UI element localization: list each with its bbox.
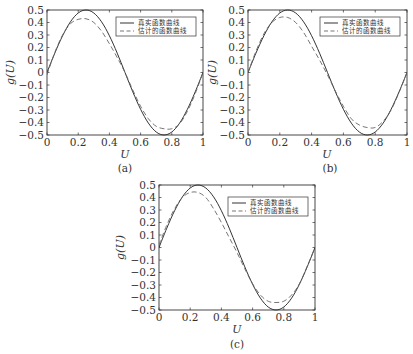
y-tick-label: 0.4 (139, 191, 156, 203)
y-tick-label: −0.1 (19, 79, 45, 91)
y-tick-label: 0.1 (228, 54, 245, 66)
chart-panel-a: 0.50.40.30.20.10−0.1−0.2−0.3−0.4−0.500.2… (4, 4, 206, 175)
legend: 真实函数曲线估计的函数曲线 (228, 197, 308, 216)
legend: 真实函数曲线估计的函数曲线 (116, 17, 196, 36)
y-tick-label: −0.3 (19, 104, 45, 116)
y-axis-label: g(U) (4, 60, 17, 85)
y-tick-label: −0.2 (131, 266, 157, 278)
legend-label-estimate: 估计的函数曲线 (138, 26, 187, 35)
y-tick-label: −0.5 (131, 304, 157, 316)
panel-caption: (b) (323, 162, 338, 174)
x-tick-label: 0.2 (182, 311, 199, 323)
chart-panel-b: 0.50.40.30.20.10−0.1−0.2−0.3−0.4−0.500.2… (206, 4, 410, 175)
y-tick-label: 0.5 (228, 4, 245, 16)
x-tick-label: 1 (312, 311, 319, 323)
y-tick-label: 0.3 (139, 204, 156, 216)
y-tick-label: −0.1 (131, 254, 157, 266)
y-tick-label: 0.4 (27, 16, 44, 28)
y-tick-label: −0.5 (220, 129, 246, 141)
x-axis-label: U (232, 323, 242, 336)
x-tick-label: 1 (404, 136, 411, 148)
legend-label-true: 真实函数曲线 (250, 198, 292, 207)
y-tick-label: −0.2 (220, 91, 246, 103)
y-tick-label: 0.4 (228, 16, 245, 28)
y-axis-label: g(U) (206, 60, 219, 85)
panel-caption: (c) (230, 338, 244, 350)
y-tick-label: 0.5 (139, 179, 156, 191)
x-axis-label: U (120, 148, 130, 161)
y-tick-label: 0.1 (27, 54, 44, 66)
x-tick-label: 0.8 (275, 311, 292, 323)
y-tick-label: 0.1 (139, 229, 156, 241)
legend-label-estimate: 估计的函数曲线 (250, 206, 299, 215)
legend-label-true: 真实函数曲线 (138, 18, 180, 27)
x-tick-label: 0.4 (101, 136, 118, 148)
x-tick-label: 0.6 (244, 311, 261, 323)
x-tick-label: 0.6 (132, 136, 149, 148)
y-tick-label: 0.2 (139, 216, 156, 228)
x-tick-label: 0.4 (303, 136, 320, 148)
x-tick-label: 1 (200, 136, 207, 148)
x-tick-label: 0.8 (367, 136, 384, 148)
y-tick-label: 0.2 (228, 41, 245, 53)
x-tick-label: 0.6 (335, 136, 352, 148)
y-tick-label: −0.4 (19, 116, 45, 128)
y-tick-label: −0.2 (19, 91, 45, 103)
y-tick-label: 0.2 (27, 41, 44, 53)
chart-panel-c: 0.50.40.30.20.10−0.1−0.2−0.3−0.4−0.500.2… (114, 179, 318, 351)
y-tick-label: −0.3 (220, 104, 246, 116)
x-tick-label: 0.2 (70, 136, 87, 148)
x-tick-label: 0 (245, 136, 252, 148)
y-tick-label: 0 (37, 66, 44, 78)
x-tick-label: 0.8 (163, 136, 180, 148)
y-tick-label: −0.4 (131, 291, 157, 303)
y-tick-label: 0.5 (27, 4, 44, 16)
x-tick-label: 0.2 (271, 136, 288, 148)
legend: 真实函数曲线估计的函数曲线 (320, 17, 400, 36)
y-tick-label: 0.3 (228, 29, 245, 41)
legend-label-true: 真实函数曲线 (342, 18, 384, 27)
y-tick-label: −0.3 (131, 279, 157, 291)
y-axis-label: g(U) (114, 235, 127, 260)
figure-canvas: 0.50.40.30.20.10−0.1−0.2−0.3−0.4−0.500.2… (0, 0, 413, 354)
x-tick-label: 0.4 (213, 311, 230, 323)
y-tick-label: −0.5 (19, 129, 45, 141)
y-tick-label: 0 (238, 66, 245, 78)
x-axis-label: U (322, 148, 332, 161)
x-tick-label: 0 (156, 311, 163, 323)
panel-caption: (a) (118, 162, 132, 174)
legend-label-estimate: 估计的函数曲线 (342, 26, 391, 35)
y-tick-label: −0.4 (220, 116, 246, 128)
y-tick-label: 0.3 (27, 29, 44, 41)
y-tick-label: 0 (149, 241, 156, 253)
x-tick-label: 0 (44, 136, 51, 148)
y-tick-label: −0.1 (220, 79, 246, 91)
